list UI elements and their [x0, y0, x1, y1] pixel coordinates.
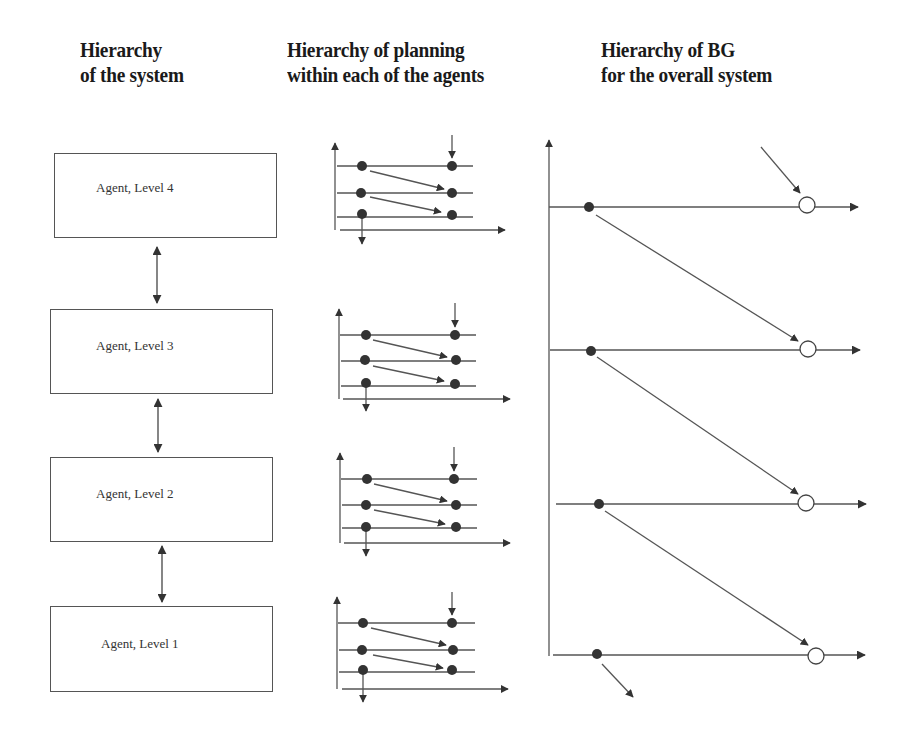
planning-panel-level-3	[339, 303, 510, 411]
bg-goal-level-3	[800, 341, 816, 357]
bg-incoming-arrow	[761, 147, 800, 193]
planning-panel-level-1	[337, 592, 508, 702]
bg-goal-level-1	[808, 648, 824, 664]
bg-node-level-4	[584, 202, 594, 212]
bg-node-level-3	[586, 346, 596, 356]
bg-hierarchy	[549, 140, 866, 697]
bg-goal-level-2	[798, 495, 814, 511]
bg-node-level-2	[594, 499, 604, 509]
planning-panel-level-4	[335, 135, 505, 244]
planning-panel-level-2	[340, 447, 510, 556]
bg-outgoing-arrow	[602, 664, 633, 697]
bg-goal-level-4	[799, 197, 815, 213]
bg-node-level-1	[592, 649, 602, 659]
diagram-canvas	[0, 0, 913, 749]
